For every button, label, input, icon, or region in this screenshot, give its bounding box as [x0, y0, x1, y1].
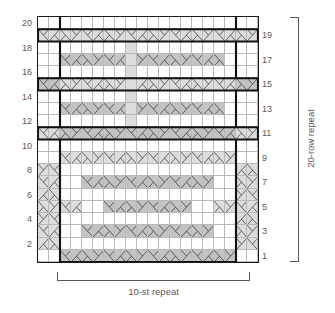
chart-cell — [225, 225, 236, 237]
row-number-19: 19 — [262, 29, 288, 41]
chart-cell — [38, 54, 49, 66]
chart-cell — [214, 189, 225, 201]
chart-cell — [137, 164, 148, 176]
row-number-7: 7 — [262, 176, 288, 188]
chart-cell — [82, 54, 93, 66]
chart-cell — [203, 140, 214, 152]
chart-cell — [181, 213, 192, 225]
chart-cell — [82, 201, 93, 213]
chart-cell — [71, 189, 82, 201]
row-number-12: 12 — [6, 115, 32, 127]
chart-cell — [115, 225, 126, 237]
chart-cell — [38, 29, 49, 41]
chart-cell — [225, 189, 236, 201]
chart-cell — [181, 176, 192, 188]
chart-cell — [247, 115, 258, 127]
chart-cell — [115, 66, 126, 78]
chart-cell — [126, 54, 137, 66]
chart-cell — [137, 201, 148, 213]
chart-cell — [38, 164, 49, 176]
chart-cell — [247, 213, 258, 225]
chart-cell — [247, 176, 258, 188]
chart-cell — [236, 91, 247, 103]
chart-cell — [214, 238, 225, 250]
chart-cell — [49, 66, 60, 78]
chart-cell — [148, 189, 159, 201]
chart-cell — [192, 225, 203, 237]
chart-cell — [38, 238, 49, 250]
chart-cell — [236, 42, 247, 54]
chart-cell — [247, 250, 258, 262]
chart-cell — [115, 17, 126, 29]
chart-cell — [38, 152, 49, 164]
chart-cell — [236, 78, 247, 90]
chart-cell — [192, 42, 203, 54]
chart-cell — [181, 54, 192, 66]
chart-cell — [214, 91, 225, 103]
chart-cell — [203, 152, 214, 164]
chart-cell — [137, 225, 148, 237]
chart-cell — [203, 54, 214, 66]
chart-cell — [104, 66, 115, 78]
chart-cell — [38, 225, 49, 237]
row-number-14: 14 — [6, 91, 32, 103]
chart-cell — [104, 189, 115, 201]
chart-cell — [49, 238, 60, 250]
chart-cell — [60, 164, 71, 176]
row-number-11: 11 — [262, 127, 288, 139]
chart-cell — [214, 213, 225, 225]
chart-cell — [203, 238, 214, 250]
chart-cell — [203, 127, 214, 139]
chart-cell — [115, 201, 126, 213]
row-bracket-bar — [298, 17, 299, 262]
chart-cell — [49, 115, 60, 127]
chart-cell — [82, 78, 93, 90]
chart-cell — [137, 29, 148, 41]
chart-cell — [60, 176, 71, 188]
chart-cell — [181, 66, 192, 78]
chart-cell — [236, 115, 247, 127]
chart-cell — [181, 189, 192, 201]
chart-cell — [49, 17, 60, 29]
chart-cell — [214, 54, 225, 66]
chart-cell — [137, 54, 148, 66]
chart-cell — [225, 176, 236, 188]
chart-cell — [159, 115, 170, 127]
chart-cell — [137, 42, 148, 54]
chart-cell — [225, 238, 236, 250]
chart-cell — [93, 213, 104, 225]
chart-cell — [203, 115, 214, 127]
chart-cell — [214, 42, 225, 54]
chart-cell — [82, 225, 93, 237]
chart-cell — [49, 189, 60, 201]
chart-cell — [71, 225, 82, 237]
chart-cell — [126, 115, 137, 127]
chart-cell — [225, 17, 236, 29]
chart-cell — [93, 78, 104, 90]
chart-cell — [159, 66, 170, 78]
chart-cell — [137, 17, 148, 29]
chart-cell — [247, 103, 258, 115]
chart-cell — [203, 29, 214, 41]
chart-cell — [38, 213, 49, 225]
stitch-bracket-tick-right — [249, 272, 250, 281]
chart-cell — [60, 152, 71, 164]
chart-cell — [192, 127, 203, 139]
chart-cell — [170, 103, 181, 115]
chart-cell — [137, 91, 148, 103]
chart-cell — [247, 42, 258, 54]
chart-cell — [170, 201, 181, 213]
chart-cell — [49, 127, 60, 139]
chart-cell — [148, 238, 159, 250]
chart-cell — [192, 176, 203, 188]
chart-cell — [82, 189, 93, 201]
chart-cell — [126, 164, 137, 176]
row-number-16: 16 — [6, 66, 32, 78]
chart-cell — [137, 103, 148, 115]
chart-cell — [159, 42, 170, 54]
chart-cell — [148, 201, 159, 213]
stitch-chart-figure: 20 18 16 14 12 10 8 6 4 2 19 17 15 13 11… — [0, 0, 335, 313]
chart-cell — [115, 176, 126, 188]
chart-cell — [115, 103, 126, 115]
row-bracket-tick-bottom — [290, 261, 299, 262]
